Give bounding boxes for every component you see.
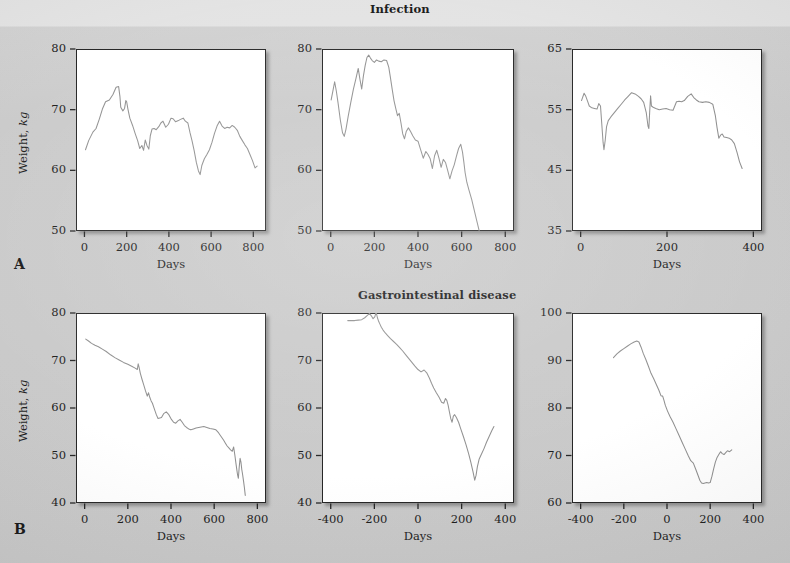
x-axis-title: Days [627, 529, 707, 543]
y-tick-label: 60 [524, 495, 562, 509]
y-tick-label: 70 [524, 448, 562, 462]
y-tick-label: 80 [524, 400, 562, 414]
x-tick-label: 400 [728, 512, 778, 526]
plot-graphics-b3 [0, 0, 790, 563]
y-tick-label: 100 [524, 305, 562, 319]
y-tick-label: 90 [524, 353, 562, 367]
figure-canvas: A B Infection Gastrointestinal disease 5… [0, 0, 790, 563]
data-line-b3 [613, 341, 731, 484]
